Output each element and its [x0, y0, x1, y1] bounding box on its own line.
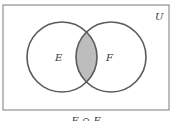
set-e-label: E	[54, 52, 63, 63]
venn-diagram: U E F E ∩ F	[0, 0, 171, 121]
set-f-label: F	[105, 52, 114, 63]
caption: E ∩ F	[71, 115, 102, 121]
universe-label: U	[155, 11, 164, 22]
